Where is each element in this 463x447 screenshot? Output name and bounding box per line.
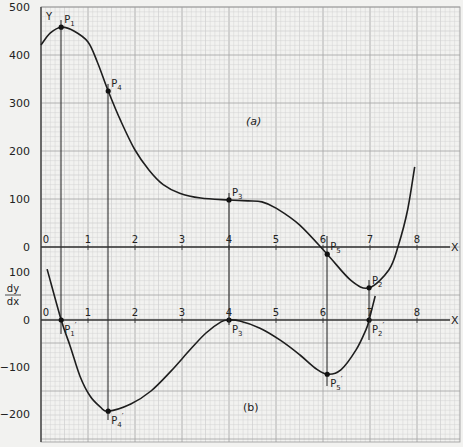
- x-tick-label: 6: [320, 234, 326, 245]
- point-label: P5′: [330, 376, 343, 392]
- y-tick: 400: [9, 49, 30, 62]
- data-point-marker: [325, 252, 330, 257]
- dy-dx-label: dy dx: [5, 283, 21, 307]
- point-label: P5: [330, 241, 341, 255]
- graph-paper-grid: [41, 7, 460, 442]
- x-axis-label-b: X: [451, 314, 459, 327]
- point-label: P2′: [372, 322, 385, 338]
- x-tick-label: 8: [414, 307, 420, 318]
- data-point-marker: [226, 197, 231, 202]
- y-tick: 300: [9, 97, 30, 110]
- x-tick-label: 0: [43, 307, 49, 318]
- x-tick-label: 6: [320, 307, 326, 318]
- panel-label-a: (a): [246, 115, 261, 128]
- x-tick-label: 0: [43, 234, 49, 245]
- x-axis-label-a: X: [451, 241, 459, 254]
- y-tick: 100: [9, 193, 30, 206]
- point-label: P4′: [111, 413, 124, 429]
- svg-text:dx: dx: [7, 296, 19, 307]
- data-point-marker: [59, 25, 64, 30]
- svg-text:dy: dy: [7, 283, 19, 294]
- x-tick-label: 4: [226, 307, 232, 318]
- points-a: P1P4P3P5P2: [59, 14, 383, 290]
- x-tick-label: 5: [273, 234, 279, 245]
- y-tick: 200: [9, 145, 30, 158]
- data-point-marker: [366, 317, 371, 322]
- x-tick-label: 8: [414, 234, 420, 245]
- data-point-marker: [106, 409, 111, 414]
- projection-lines: [61, 20, 374, 420]
- y-tick: 500: [9, 1, 30, 14]
- y-tick: 100: [9, 266, 30, 279]
- x-tick-label: 2: [132, 234, 138, 245]
- x-tick-label: 1: [85, 307, 91, 318]
- point-label: P2: [372, 275, 383, 289]
- curve-a-function: [41, 27, 415, 288]
- x-tick-label: 7: [367, 234, 373, 245]
- data-point-marker: [325, 372, 330, 377]
- data-point-marker: [106, 88, 111, 93]
- x-tick-label: 5: [273, 307, 279, 318]
- x-tick-label: 7: [367, 307, 373, 318]
- derivative-graph-figure: P1P4P3P5P2 P1′P4′P3′P5′P2′ 500 400 300 2…: [0, 0, 463, 447]
- y-tick: 0: [23, 241, 30, 254]
- x-tick-label: 3: [179, 234, 185, 245]
- x-tick-label: 1: [85, 234, 91, 245]
- y-tick: −200: [0, 408, 30, 421]
- y-tick: −100: [0, 361, 30, 374]
- x-tick-label: 3: [179, 307, 185, 318]
- data-point-marker: [59, 317, 64, 322]
- x-tick-label: 2: [132, 307, 138, 318]
- data-point-marker: [366, 285, 371, 290]
- panel-label-b: (b): [243, 401, 259, 414]
- y-axis-label: Y: [45, 11, 53, 22]
- x-tick-label: 4: [226, 234, 232, 245]
- point-label: P4: [111, 78, 122, 92]
- y-tick: 0: [23, 314, 30, 327]
- y-ticks-a: 500 400 300 200 100 0: [9, 1, 30, 254]
- curve-b-derivative: [47, 269, 375, 411]
